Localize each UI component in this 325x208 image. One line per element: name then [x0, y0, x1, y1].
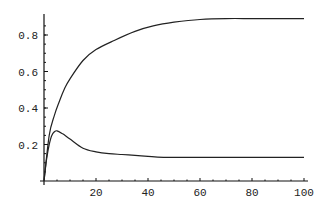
x-tick-label: 60	[193, 187, 206, 199]
x-tick-label: 40	[141, 187, 154, 199]
y-tick-label: 0.4	[18, 103, 38, 115]
y-tick-label: 0.6	[18, 67, 38, 79]
upper-curve	[44, 19, 304, 181]
x-tick-label: 100	[294, 187, 314, 199]
line-chart: 20406080100 0.20.40.60.8	[0, 0, 325, 208]
axes	[40, 14, 308, 185]
series-group	[44, 19, 304, 181]
x-tick-label: 80	[245, 187, 258, 199]
lower-curve	[44, 131, 304, 181]
x-tick-label: 20	[89, 187, 102, 199]
y-tick-label: 0.8	[18, 30, 38, 42]
y-tick-label: 0.2	[18, 140, 38, 152]
